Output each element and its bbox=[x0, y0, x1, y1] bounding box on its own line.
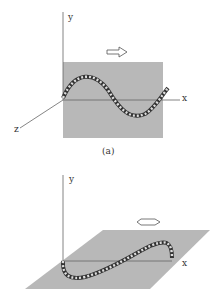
figure-a bbox=[20, 12, 180, 138]
caption: (a) bbox=[102, 146, 114, 156]
y-axis-label: y bbox=[68, 12, 73, 22]
z-axis bbox=[20, 100, 63, 128]
arrow-right-icon bbox=[137, 219, 160, 225]
z-axis-label: z bbox=[14, 124, 19, 134]
x-axis-label: x bbox=[182, 258, 187, 268]
arrow-right-icon bbox=[107, 47, 127, 57]
y-axis-label: y bbox=[69, 174, 74, 184]
x-axis-label: x bbox=[182, 93, 187, 103]
diagram bbox=[0, 0, 218, 289]
figure-b bbox=[25, 175, 210, 289]
